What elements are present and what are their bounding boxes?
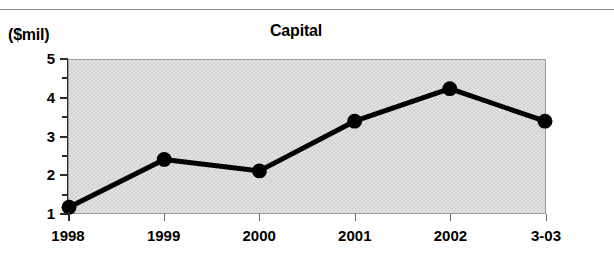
y-tick-5: [60, 58, 68, 60]
data-point-2002: [442, 81, 457, 96]
chart-title-text: Capital: [270, 22, 322, 39]
y-minor-tick-3.5: [62, 116, 68, 118]
chart-title: Capital: [0, 22, 614, 40]
y-minor-tick-4.5: [62, 77, 68, 79]
y-tick-3: [60, 136, 68, 138]
x-tick-1999: [164, 214, 165, 221]
data-point-3-03: [538, 114, 553, 129]
x-tick-3-03: [546, 214, 547, 221]
top-divider-rule: [0, 9, 614, 10]
y-minor-tick-2.5: [62, 155, 68, 157]
y-tick-label-1: 1: [3, 206, 55, 221]
line-series-svg: [69, 60, 545, 213]
x-tick-label-3-03: 3-03: [501, 228, 591, 243]
series-line-capital: [69, 89, 545, 208]
x-tick-label-1999: 1999: [119, 228, 209, 243]
y-tick-label-4: 4: [3, 90, 55, 105]
y-tick-1: [60, 213, 68, 215]
x-tick-label-2000: 2000: [214, 228, 304, 243]
chart-screenshot: ($mil) Capital 12345 1998199920002001200…: [0, 0, 614, 262]
x-tick-label-2002: 2002: [405, 228, 495, 243]
y-minor-tick-1.5: [62, 194, 68, 196]
x-tick-2002: [450, 214, 451, 221]
x-tick-2001: [355, 214, 356, 221]
y-tick-label-5: 5: [3, 51, 55, 66]
y-tick-label-2: 2: [3, 167, 55, 182]
x-tick-label-2001: 2001: [310, 228, 400, 243]
data-point-1999: [157, 152, 172, 167]
data-point-2001: [347, 114, 362, 129]
y-tick-4: [60, 97, 68, 99]
data-point-2000: [252, 164, 267, 179]
x-tick-2000: [259, 214, 260, 221]
x-tick-1998: [68, 212, 70, 221]
y-tick-label-3: 3: [3, 129, 55, 144]
x-tick-label-1998: 1998: [23, 228, 113, 243]
y-tick-2: [60, 174, 68, 176]
plot-area: [68, 59, 546, 214]
